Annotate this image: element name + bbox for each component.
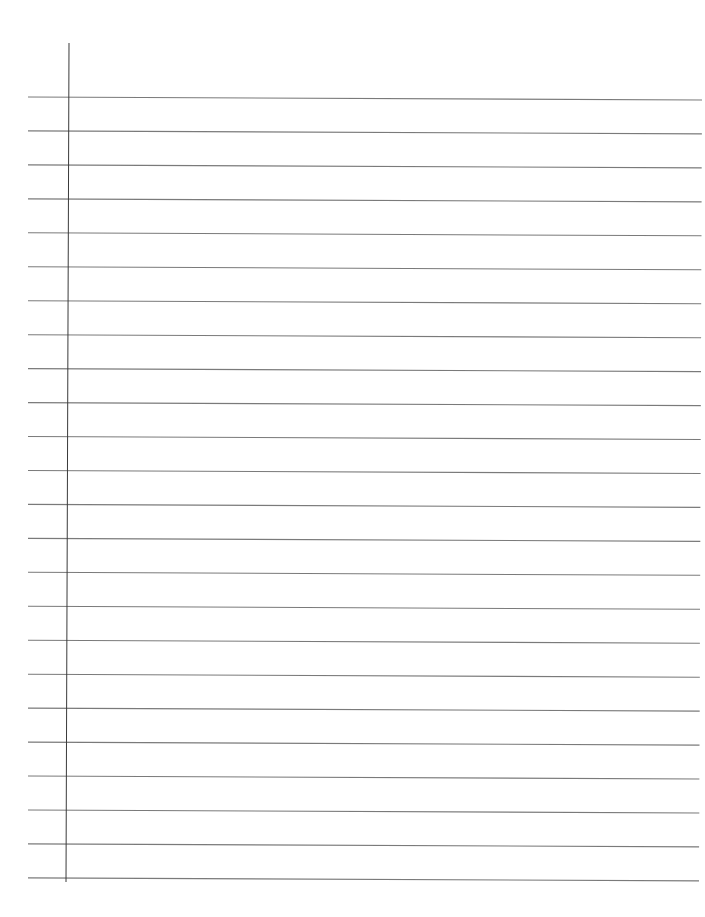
margin-line bbox=[66, 43, 69, 882]
horizontal-rules bbox=[28, 97, 702, 881]
ruled-line bbox=[28, 810, 699, 813]
ruled-line bbox=[28, 708, 700, 711]
ruled-line bbox=[28, 572, 700, 575]
ruled-line bbox=[28, 369, 701, 372]
ruled-line bbox=[28, 199, 702, 202]
ruled-line bbox=[28, 776, 699, 779]
ruled-line bbox=[28, 471, 701, 474]
ruled-line bbox=[28, 674, 700, 677]
ruled-line bbox=[28, 504, 700, 507]
ruled-line bbox=[28, 301, 701, 304]
ruled-line bbox=[28, 233, 702, 236]
lined-paper-sheet bbox=[0, 0, 705, 917]
ruled-line bbox=[28, 640, 700, 643]
ruled-line bbox=[28, 335, 701, 338]
ruled-line bbox=[28, 844, 699, 847]
ruled-line bbox=[28, 267, 701, 270]
ruled-line bbox=[28, 437, 701, 440]
ruled-lines-canvas bbox=[0, 0, 705, 917]
ruled-line bbox=[28, 131, 702, 134]
ruled-line bbox=[28, 742, 700, 745]
ruled-line bbox=[28, 878, 699, 881]
ruled-line bbox=[28, 97, 702, 100]
ruled-line bbox=[28, 538, 700, 541]
ruled-line bbox=[28, 165, 702, 168]
ruled-line bbox=[28, 403, 701, 406]
ruled-line bbox=[28, 606, 700, 609]
